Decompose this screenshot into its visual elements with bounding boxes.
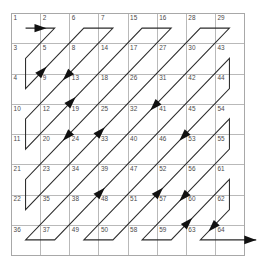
cell-number: 11 [14, 135, 21, 142]
cell-number: 23 [43, 165, 51, 172]
cell-number: 22 [14, 195, 22, 202]
cell-number: 58 [130, 226, 138, 233]
cell-number: 40 [130, 135, 138, 142]
cell-number: 62 [217, 195, 225, 202]
cell-number: 26 [130, 74, 138, 81]
cell-number: 25 [101, 105, 109, 112]
cell-number: 5 [43, 44, 47, 51]
cell-number: 9 [43, 74, 47, 81]
cell-number: 19 [72, 105, 80, 112]
cell-number: 55 [217, 135, 225, 142]
cell-number: 57 [159, 195, 167, 202]
cell-number: 51 [130, 195, 138, 202]
cell-number: 52 [159, 165, 167, 172]
cell-number: 30 [188, 44, 196, 51]
cell-number: 15 [130, 14, 138, 21]
cell-number: 60 [188, 195, 196, 202]
zigzag-scan-diagram: 1267151628293581417273043491318263142441… [0, 0, 264, 270]
cell-number: 7 [101, 14, 105, 21]
cell-number: 39 [101, 165, 109, 172]
cell-number: 35 [43, 195, 51, 202]
cell-number: 1 [14, 14, 18, 21]
cell-number: 50 [101, 226, 109, 233]
cell-number: 13 [72, 74, 80, 81]
cell-number: 59 [159, 226, 167, 233]
cell-number: 53 [188, 135, 196, 142]
cell-number: 42 [188, 74, 196, 81]
cell-number: 18 [101, 74, 109, 81]
cell-number: 32 [130, 105, 138, 112]
cell-number: 29 [217, 14, 225, 21]
cell-number: 31 [159, 74, 167, 81]
cell-numbers: 1267151628293581417273043491318263142441… [14, 14, 225, 233]
cell-number: 24 [72, 135, 80, 142]
cell-number: 63 [188, 226, 196, 233]
zigzag-scan-svg: 1267151628293581417273043491318263142441… [0, 0, 264, 270]
cell-number: 8 [72, 44, 76, 51]
cell-number: 20 [43, 135, 51, 142]
cell-number: 47 [130, 165, 138, 172]
cell-number: 12 [43, 105, 51, 112]
cell-number: 41 [159, 105, 167, 112]
cell-number: 46 [159, 135, 167, 142]
cell-number: 4 [14, 74, 18, 81]
cell-number: 27 [159, 44, 167, 51]
cell-number: 36 [14, 226, 22, 233]
cell-number: 14 [101, 44, 109, 51]
cell-number: 28 [188, 14, 196, 21]
cell-number: 16 [159, 14, 167, 21]
cell-number: 6 [72, 14, 76, 21]
cell-number: 54 [217, 105, 225, 112]
cell-number: 48 [101, 195, 109, 202]
cell-number: 17 [130, 44, 138, 51]
cell-number: 43 [217, 44, 225, 51]
arrow-head-exit [244, 235, 256, 244]
cell-number: 37 [43, 226, 51, 233]
cell-number: 21 [14, 165, 22, 172]
cell-number: 61 [217, 165, 225, 172]
cell-number: 45 [188, 105, 196, 112]
cell-number: 49 [72, 226, 80, 233]
cell-number: 33 [101, 135, 109, 142]
cell-number: 34 [72, 165, 80, 172]
cell-number: 56 [188, 165, 196, 172]
cell-number: 2 [43, 14, 47, 21]
cell-number: 44 [217, 74, 225, 81]
cell-number: 38 [72, 195, 80, 202]
cell-number: 3 [14, 44, 18, 51]
cell-number: 64 [217, 226, 225, 233]
cell-number: 10 [14, 105, 22, 112]
